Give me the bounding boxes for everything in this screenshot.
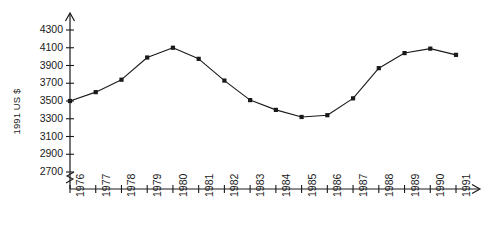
data-point-markers: [68, 46, 458, 119]
x-tick-label: 1978: [125, 174, 137, 197]
chart-axes: [66, 13, 481, 194]
x-tick-label: 1976: [74, 174, 86, 197]
y-tick-label: 2900: [19, 147, 63, 159]
x-tick-label: 1989: [409, 174, 421, 197]
chart-ticks: [66, 30, 456, 193]
y-tick-label: 4300: [19, 23, 63, 35]
y-tick-label: 4100: [19, 41, 63, 53]
data-series-line: [70, 48, 456, 117]
y-tick-label: 3700: [19, 76, 63, 88]
x-tick-label: 1982: [228, 174, 240, 197]
x-tick-label: 1986: [331, 174, 343, 197]
y-tick-label: 3300: [19, 112, 63, 124]
x-tick-label: 1981: [203, 174, 215, 197]
y-tick-label: 3100: [19, 130, 63, 142]
x-tick-label: 1984: [280, 174, 292, 197]
x-tick-label: 1988: [383, 174, 395, 197]
x-tick-label: 1991: [460, 174, 472, 197]
y-tick-label: 3500: [19, 94, 63, 106]
x-tick-label: 1979: [151, 174, 163, 197]
x-tick-label: 1985: [306, 174, 318, 197]
x-tick-label: 1983: [254, 174, 266, 197]
line-chart: 1991 US $ 270029003100330035003700390041…: [0, 0, 494, 231]
x-tick-label: 1990: [434, 174, 446, 197]
y-tick-label: 2700: [19, 165, 63, 177]
x-tick-label: 1980: [177, 174, 189, 197]
x-tick-label: 1987: [357, 174, 369, 197]
y-tick-label: 3900: [19, 59, 63, 71]
x-tick-label: 1977: [100, 174, 112, 197]
